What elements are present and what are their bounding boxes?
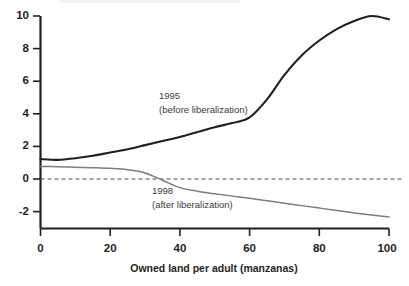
chart-figure: 10 8 6 4 2 0 -2 0 20 40 60 80 100 [0, 0, 409, 286]
y-tick-label-0: 0 [23, 172, 29, 184]
x-tick-label-0: 0 [37, 242, 43, 254]
annotation-1995-year: 1995 [159, 90, 180, 101]
x-tick-label-80: 80 [313, 242, 326, 254]
x-tick-label-100: 100 [377, 242, 396, 254]
x-tick-label-20: 20 [104, 242, 117, 254]
y-tick-label-4: 4 [23, 107, 30, 119]
series-line-1995 [41, 16, 390, 160]
y-tick-label-10: 10 [16, 9, 29, 21]
y-tick-label-6: 6 [23, 74, 29, 86]
annotation-1998: 1998 (after liberalization) [152, 185, 233, 210]
y-tick-label-8: 8 [23, 42, 30, 54]
y-ticks [33, 16, 40, 212]
chart-svg: 10 8 6 4 2 0 -2 0 20 40 60 80 100 [0, 0, 409, 286]
y-tick-label-2: 2 [23, 139, 29, 151]
axes [41, 16, 390, 229]
annotation-1995-note: (before liberalization) [159, 104, 248, 115]
x-tick-label-60: 60 [243, 242, 256, 254]
annotation-1998-note: (after liberalization) [152, 199, 233, 210]
y-tick-label-neg2: -2 [19, 205, 29, 217]
annotation-1995: 1995 (before liberalization) [159, 90, 248, 115]
x-axis-title: Owned land per adult (manzanas) [130, 262, 297, 274]
x-tick-label-40: 40 [174, 242, 187, 254]
x-tick-labels: 0 20 40 60 80 100 [37, 242, 396, 254]
annotation-1998-year: 1998 [152, 185, 173, 196]
cropped-header-sliver [60, 0, 240, 3]
x-ticks [41, 229, 390, 237]
y-tick-labels: 10 8 6 4 2 0 -2 [16, 9, 29, 217]
